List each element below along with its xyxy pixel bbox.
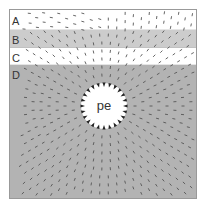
field-dash — [117, 183, 118, 186]
band-label-d: D — [12, 69, 20, 81]
field-dash — [50, 17, 53, 18]
field-dash — [110, 143, 111, 146]
field-dash — [91, 183, 92, 186]
field-dash — [170, 26, 171, 29]
field-dash — [189, 93, 192, 94]
field-dash — [156, 25, 157, 28]
field-dash — [172, 119, 175, 120]
field-dash — [57, 13, 60, 14]
field-dash — [93, 51, 94, 54]
band-label-b: B — [12, 34, 19, 46]
field-dash — [58, 22, 61, 23]
field-dash — [172, 93, 175, 94]
field-dash — [164, 21, 165, 24]
field-dash — [25, 89, 28, 90]
field-dash — [33, 93, 36, 94]
field-dash — [164, 11, 165, 14]
field-dash — [42, 13, 45, 14]
field-dash — [93, 159, 94, 162]
field-dash — [91, 174, 92, 177]
band-label-c: C — [12, 52, 20, 64]
field-dash — [33, 119, 36, 120]
field-dash — [110, 74, 111, 77]
field-dash — [64, 114, 67, 115]
field-dash — [65, 27, 68, 28]
field-dash — [189, 119, 192, 120]
field-dash — [149, 114, 152, 115]
field-dash — [110, 66, 111, 69]
field-dash — [93, 42, 94, 45]
center-label: pe — [97, 98, 111, 113]
field-dash — [110, 135, 111, 138]
field-dash — [91, 191, 92, 194]
field-dash — [41, 93, 44, 94]
field-dash — [171, 16, 172, 19]
field-dash — [180, 89, 183, 90]
field-dash — [93, 167, 94, 170]
field-dash — [117, 191, 118, 194]
field-dash — [91, 35, 92, 38]
field-dash — [178, 22, 179, 25]
field-dash — [117, 35, 118, 38]
field-dash — [64, 97, 67, 98]
field-dash — [180, 123, 183, 124]
field-dash — [178, 12, 179, 15]
field-dash — [185, 17, 186, 20]
band-c — [10, 48, 196, 65]
band-a — [10, 10, 196, 30]
field-dash — [192, 13, 193, 16]
field-diagram: A B C D pe — [0, 0, 206, 211]
field-dash — [149, 97, 152, 98]
field-dash — [25, 123, 28, 124]
field-dash — [41, 118, 44, 119]
band-label-a: A — [12, 15, 20, 27]
band-b — [10, 30, 196, 48]
field-dash — [191, 24, 192, 27]
field-dash — [117, 174, 118, 177]
